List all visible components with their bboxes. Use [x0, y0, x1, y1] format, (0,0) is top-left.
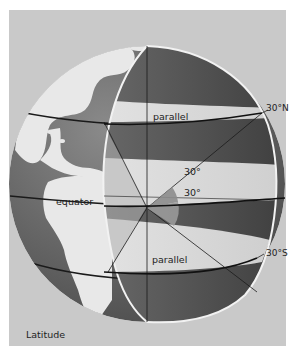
label-angle-north: 30°: [184, 166, 201, 177]
label-30n: 30°N: [266, 103, 289, 113]
label-parallel-north: parallel: [153, 111, 188, 122]
figure-caption: Latitude: [26, 329, 65, 340]
label-parallel-south: parallel: [152, 254, 187, 265]
land-caribbean-2: [59, 139, 65, 143]
label-30s: 30°S: [266, 248, 288, 258]
latitude-globe-diagram: parallel 30°N 30° 30° equator parallel 3…: [0, 0, 292, 358]
label-angle-south: 30°: [184, 187, 201, 198]
label-equator: equator: [56, 196, 93, 207]
land-caribbean: [47, 130, 57, 134]
